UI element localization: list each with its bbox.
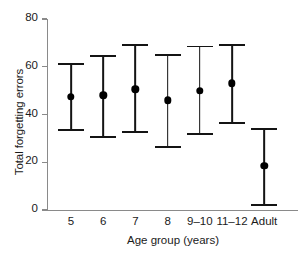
- y-axis-tick-label: 80: [4, 11, 38, 23]
- error-bar-upper-cap: [251, 128, 277, 130]
- y-axis-title: Total forgetting errors: [11, 27, 27, 218]
- error-bar-lower-cap: [155, 146, 181, 148]
- x-axis-line: [47, 210, 298, 211]
- error-bar-lower-cap: [219, 122, 245, 124]
- data-point-marker: [67, 93, 74, 100]
- y-axis-tick-label: 0: [4, 202, 38, 214]
- error-bar-upper-cap: [122, 44, 148, 46]
- y-axis-tick-label: 20: [4, 154, 38, 166]
- error-bar-lower-cap: [187, 133, 213, 135]
- y-axis-tick-mark: [42, 66, 47, 67]
- y-axis-tick-mark: [42, 114, 47, 115]
- y-axis-tick-mark: [42, 209, 47, 210]
- data-point-marker: [228, 80, 235, 87]
- error-bar-lower-cap: [122, 131, 148, 133]
- error-bar-upper-cap: [187, 46, 213, 48]
- x-axis-tick-label: 5: [68, 215, 74, 227]
- data-point-marker: [196, 87, 203, 94]
- y-axis-tick-mark: [42, 162, 47, 163]
- error-bar-lower-cap: [251, 204, 277, 206]
- error-bar-upper-cap: [58, 63, 84, 65]
- data-point-marker: [132, 86, 139, 93]
- error-bar-upper-cap: [155, 54, 181, 56]
- data-point-marker: [164, 96, 171, 103]
- x-axis-tick-label: 7: [132, 215, 138, 227]
- error-bar-upper-cap: [90, 55, 116, 57]
- x-axis-tick-label: 11–12: [216, 215, 247, 227]
- data-point-marker: [260, 162, 267, 169]
- y-axis-tick-label: 60: [4, 59, 38, 71]
- y-axis-line: [47, 19, 48, 211]
- x-axis-tick-label: 8: [164, 215, 170, 227]
- error-bar-upper-cap: [219, 44, 245, 46]
- x-axis-title: Age group (years): [48, 234, 298, 246]
- data-point-marker: [99, 92, 106, 99]
- x-axis-tick-label: 9–10: [187, 215, 213, 227]
- x-axis-tick-label: 6: [100, 215, 106, 227]
- error-bar-lower-cap: [90, 136, 116, 138]
- forgetting-errors-error-bar-chart: Total forgetting errors Age group (years…: [0, 0, 304, 257]
- error-bar-lower-cap: [58, 129, 84, 131]
- y-axis-tick-mark: [42, 18, 47, 19]
- x-axis-tick-label: Adult: [251, 215, 277, 227]
- y-axis-tick-label: 40: [4, 107, 38, 119]
